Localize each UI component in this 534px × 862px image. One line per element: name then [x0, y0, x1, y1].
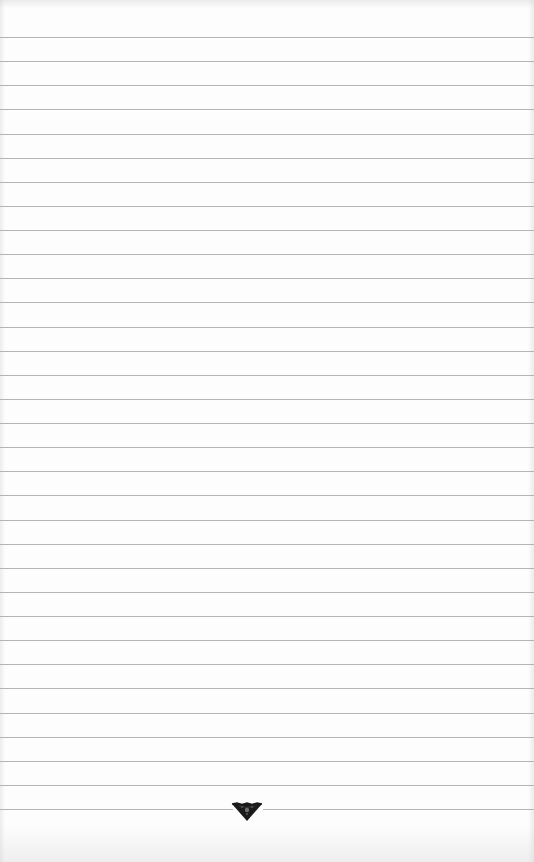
- rule-line: [0, 785, 534, 786]
- rule-line: [0, 544, 534, 545]
- rule-line: [0, 568, 534, 569]
- rule-line: [0, 399, 534, 400]
- rule-line: [0, 351, 534, 352]
- rule-line: [0, 327, 534, 328]
- rule-line: [0, 182, 534, 183]
- rule-line: [0, 109, 534, 110]
- rule-line: [0, 664, 534, 665]
- rule-line: [0, 640, 534, 641]
- rule-line: [0, 230, 534, 231]
- rule-line: [0, 592, 534, 593]
- rule-line: [0, 520, 534, 521]
- rule-line: [0, 254, 534, 255]
- rule-line: [0, 495, 534, 496]
- rule-line: [0, 761, 534, 762]
- rule-line: [263, 809, 534, 810]
- rule-line: [0, 37, 534, 38]
- rule-line: [0, 158, 534, 159]
- rule-line: [0, 713, 534, 714]
- rule-line: [0, 278, 534, 279]
- triangle-ornament-icon: [231, 802, 263, 822]
- rule-line: [0, 737, 534, 738]
- rule-line: [0, 134, 534, 135]
- rule-line: [0, 206, 534, 207]
- rule-line: [0, 688, 534, 689]
- rule-line: [0, 616, 534, 617]
- lined-paper-page: [0, 0, 534, 862]
- rule-line: [0, 809, 233, 810]
- rule-line: [0, 447, 534, 448]
- rule-line: [0, 471, 534, 472]
- rule-line: [0, 61, 534, 62]
- rule-line: [0, 302, 534, 303]
- rule-line: [0, 85, 534, 86]
- rule-line: [0, 423, 534, 424]
- rule-line: [0, 375, 534, 376]
